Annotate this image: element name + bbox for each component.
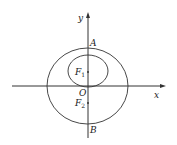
focus-f2-label: F2	[74, 98, 85, 109]
diagram-canvas: y x O A B F1 F2	[0, 0, 177, 145]
point-b-label: B	[89, 125, 97, 135]
origin-label: O	[79, 88, 87, 98]
focus-f1-dot	[87, 71, 89, 73]
y-axis-arrow-icon	[86, 12, 90, 18]
focus-f2-dot	[87, 102, 89, 104]
point-a-label: A	[89, 38, 97, 48]
x-axis-arrow-icon	[160, 84, 166, 88]
x-axis-label: x	[154, 90, 159, 100]
focus-f1-label: F1	[74, 67, 85, 78]
y-axis-label: y	[77, 13, 84, 23]
